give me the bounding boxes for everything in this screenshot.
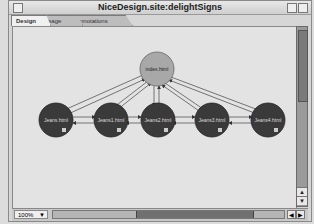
scroll-down-arrow-icon[interactable]: ▼	[297, 196, 307, 205]
horizontal-scrollbar[interactable]	[52, 210, 285, 219]
vertical-scrollbar[interactable]: ▲ ▼	[296, 26, 308, 207]
horizontal-scroll-thumb[interactable]	[136, 211, 254, 218]
site-diagram-canvas[interactable]: index.html Jeans.html Jeans1.html Jeans2…	[12, 26, 297, 209]
page-node-jeans3[interactable]: Jeans3.html	[195, 103, 229, 137]
page-node-label: Jeans4.html	[255, 117, 282, 123]
collapse-box[interactable]	[298, 3, 308, 13]
page-doc-icon	[62, 128, 66, 132]
chevron-down-icon: ▼	[39, 211, 45, 220]
title-bar[interactable]: NiceDesign.site:delightSigns	[9, 1, 311, 15]
zoom-box[interactable]	[287, 3, 297, 13]
page-node-label: Jeans.html	[44, 117, 68, 123]
root-node[interactable]: index.html	[140, 52, 174, 86]
page-node-label: Jeans3.html	[199, 117, 226, 123]
page-node-jeans1[interactable]: Jeans1.html	[94, 103, 128, 137]
page-node-jeans[interactable]: Jeans.html	[39, 103, 73, 137]
scroll-left-arrow-icon[interactable]: ◀	[287, 210, 296, 219]
window-title: NiceDesign.site:delightSigns	[9, 2, 311, 12]
tab-design[interactable]: Design	[11, 15, 51, 26]
zoom-level-value: 100%	[18, 212, 33, 218]
site-map-diagram: index.html Jeans.html Jeans1.html Jeans2…	[13, 27, 296, 208]
page-node-jeans4[interactable]: Jeans4.html	[251, 103, 285, 137]
zoom-level-select[interactable]: 100% ▼	[14, 210, 48, 219]
page-node-label: Jeans2.html	[145, 117, 172, 123]
status-bar: 100% ▼ ◀ ▶	[12, 208, 308, 221]
page-node-jeans2[interactable]: Jeans2.html	[141, 103, 175, 137]
vertical-scroll-thumb[interactable]	[298, 30, 308, 102]
scroll-up-arrow-icon[interactable]: ▲	[297, 187, 307, 196]
page-doc-icon	[164, 128, 168, 132]
scroll-right-arrow-icon[interactable]: ▶	[296, 210, 305, 219]
root-node-label: index.html	[146, 66, 169, 72]
page-doc-icon	[117, 128, 121, 132]
page-node-label: Jeans1.html	[98, 117, 125, 123]
page-doc-icon	[218, 128, 222, 132]
site-window: NiceDesign.site:delightSigns Design Usag…	[8, 0, 312, 222]
page-doc-icon	[274, 128, 278, 132]
